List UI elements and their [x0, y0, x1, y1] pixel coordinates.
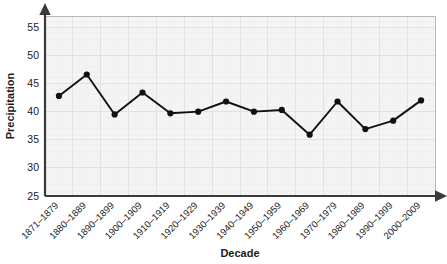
- y-axis-title: Precipitation: [4, 72, 16, 139]
- y-axis-tick-label: 45: [27, 77, 39, 89]
- y-axis-tick-label: 25: [27, 190, 39, 202]
- data-point-marker: [84, 71, 90, 77]
- x-axis-tick-labels: 1871–18791880–18891890–18991900–19091910…: [19, 200, 423, 241]
- data-point-marker: [334, 98, 340, 104]
- data-point-marker: [279, 107, 285, 113]
- data-point-marker: [362, 126, 368, 132]
- data-point-marker: [112, 111, 118, 117]
- data-point-marker: [139, 89, 145, 95]
- chart-canvas: 25303540455055 1871–18791880–18891890–18…: [0, 0, 447, 264]
- y-axis-tick-labels: 25303540455055: [27, 21, 39, 202]
- data-point-marker: [56, 93, 62, 99]
- data-point-marker: [167, 110, 173, 116]
- data-point-marker: [418, 97, 424, 103]
- y-axis-tick-label: 50: [27, 49, 39, 61]
- data-point-marker: [390, 118, 396, 124]
- data-point-marker: [195, 109, 201, 115]
- data-point-marker: [307, 132, 313, 138]
- y-axis-tick-label: 40: [27, 105, 39, 117]
- data-point-marker: [223, 98, 229, 104]
- precipitation-by-decade-line-chart: 25303540455055 1871–18791880–18891890–18…: [0, 0, 447, 264]
- y-axis-tick-label: 35: [27, 133, 39, 145]
- data-point-marker: [251, 109, 257, 115]
- x-axis-title: Decade: [220, 247, 259, 259]
- y-axis-tick-label: 55: [27, 21, 39, 33]
- y-axis-tick-label: 30: [27, 161, 39, 173]
